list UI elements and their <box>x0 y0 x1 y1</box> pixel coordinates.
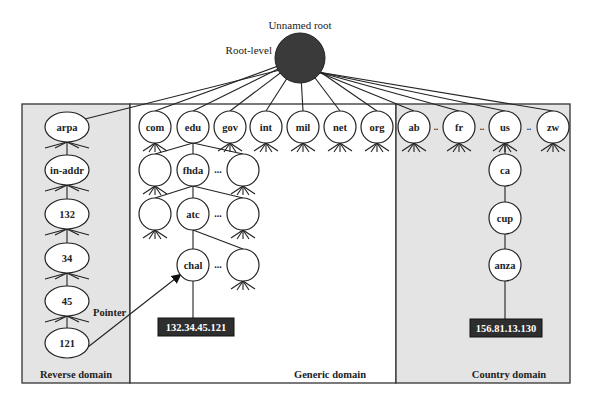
reverse-node-132-label: 132 <box>59 209 75 220</box>
country-node-cup: cup <box>489 202 521 234</box>
country-node-cup-label: cup <box>497 213 514 224</box>
generic-node-edu-label: edu <box>185 122 202 133</box>
reverse-node-121-label: 121 <box>59 338 75 349</box>
reverse-node-34: 34 <box>45 243 89 273</box>
generic-node-net-label: net <box>333 122 348 133</box>
country-node-fr-label: fr <box>455 122 463 133</box>
reverse-node-132: 132 <box>45 199 89 229</box>
reverse-node-arpa: arpa <box>45 112 89 142</box>
generic-node-gov-label: gov <box>222 122 239 133</box>
reverse-node-in-addr-label: in-addr <box>50 165 84 176</box>
reverse-node-in-addr: in-addr <box>45 155 89 185</box>
country-node-zw: zw <box>537 111 569 143</box>
generic-node-chal-label: chal <box>184 260 203 271</box>
generic-node-gov: gov <box>214 111 246 143</box>
country-node-ab: ab <box>398 111 430 143</box>
root-node <box>275 33 325 83</box>
reverse-node-45: 45 <box>45 286 89 316</box>
generic-node-net: net <box>324 111 356 143</box>
country-separator-0: .. <box>434 122 439 132</box>
generic-domain-label: Generic domain <box>294 369 366 380</box>
country-host-address-text: 156.81.13.130 <box>476 323 536 334</box>
generic-host-address: 132.34.45.121 <box>158 318 234 336</box>
generic-node-fhda-child-0 <box>139 198 171 230</box>
generic-node-atc: atc <box>177 198 209 230</box>
generic-node-edu-child-2 <box>227 154 259 186</box>
country-separator-2: .. <box>527 122 532 132</box>
generic-node-fhda-label: fhda <box>183 165 204 176</box>
ellipsis-atc-children: ... <box>214 259 222 270</box>
root-level-label: Root-level <box>226 44 272 56</box>
generic-node-chal: chal <box>177 249 209 281</box>
country-node-fr: fr <box>443 111 475 143</box>
generic-node-org: org <box>361 111 393 143</box>
country-domain-label: Country domain <box>472 369 547 380</box>
generic-node-fhda: fhda <box>177 154 209 186</box>
reverse-domain-label: Reverse domain <box>40 369 112 380</box>
generic-node-int: int <box>250 111 282 143</box>
country-node-ab-label: ab <box>408 122 419 133</box>
reverse-node-34-label: 34 <box>62 253 73 264</box>
generic-node-edu-child-0 <box>139 154 171 186</box>
generic-node-com: com <box>139 111 171 143</box>
pointer-label: Pointer <box>93 307 127 318</box>
generic-node-int-label: int <box>260 122 273 133</box>
root-title: Unnamed root <box>268 19 331 31</box>
reverse-node-45-label: 45 <box>62 296 73 307</box>
reverse-node-121: 121 <box>45 328 89 358</box>
country-node-ca: ca <box>489 154 521 186</box>
country-separator-1: .. <box>480 122 485 132</box>
country-node-us: us <box>489 111 521 143</box>
country-node-zw-label: zw <box>547 122 560 133</box>
generic-node-mil: mil <box>287 111 319 143</box>
ellipsis-edu-children: ... <box>214 164 222 175</box>
country-domain-region <box>396 104 570 383</box>
country-node-us-label: us <box>500 122 510 133</box>
generic-node-org-label: org <box>369 122 385 133</box>
country-node-anza: anza <box>489 249 521 281</box>
country-node-ca-label: ca <box>500 165 511 176</box>
generic-node-edu: edu <box>177 111 209 143</box>
country-host-address: 156.81.13.130 <box>470 319 542 337</box>
reverse-node-arpa-label: arpa <box>57 122 79 133</box>
generic-node-atc-label: atc <box>186 209 200 220</box>
generic-node-mil-label: mil <box>296 122 311 133</box>
generic-node-atc-child-1 <box>227 249 259 281</box>
ellipsis-fhda-children: ... <box>214 208 222 219</box>
country-node-anza-label: anza <box>495 260 517 271</box>
generic-node-fhda-child-2 <box>227 198 259 230</box>
generic-host-address-text: 132.34.45.121 <box>166 322 226 333</box>
dns-tree-diagram: arpain-addr1323445121comedugovintmilneto… <box>0 0 598 405</box>
generic-node-com-label: com <box>146 122 165 133</box>
generic-domain-region <box>130 104 396 383</box>
